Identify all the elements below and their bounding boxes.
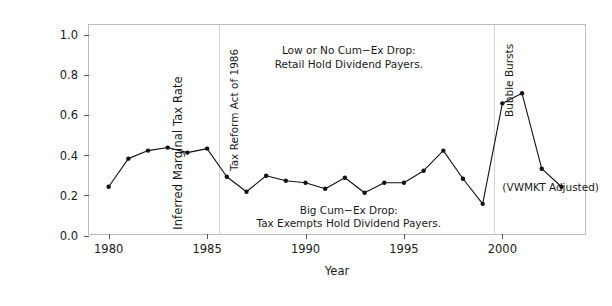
data-point <box>500 101 504 105</box>
x-axis-tick-label: 1985 <box>192 242 221 256</box>
data-point <box>244 190 248 194</box>
x-axis-tick-label: 2000 <box>488 242 517 256</box>
chart-figure: Inferred Marginal Tax Rate 0.00.20.40.60… <box>0 0 612 306</box>
data-point <box>185 150 189 154</box>
data-point <box>146 148 150 152</box>
plot-area: Inferred Marginal Tax Rate 0.00.20.40.60… <box>88 24 586 235</box>
y-axis-tick-label: 0.6 <box>60 108 84 122</box>
series-layer <box>89 25 587 236</box>
y-axis-tick-label: 0.8 <box>60 68 84 82</box>
data-point <box>402 181 406 185</box>
data-point <box>520 91 524 95</box>
data-point <box>166 145 170 149</box>
x-axis-label: Year <box>89 264 585 278</box>
data-point <box>441 148 445 152</box>
data-point <box>362 191 366 195</box>
data-point <box>126 156 130 160</box>
x-axis-tick-label: 1990 <box>291 242 320 256</box>
y-axis-tick: 0.6 <box>60 108 89 122</box>
y-axis-tick: 0.8 <box>60 68 89 82</box>
data-point <box>343 176 347 180</box>
y-axis-tick-label: 0.2 <box>60 189 84 203</box>
y-axis-tick: 1.0 <box>60 28 89 42</box>
data-point <box>559 185 563 189</box>
data-point <box>382 181 386 185</box>
data-point <box>106 185 110 189</box>
y-axis-tick: 0.0 <box>60 229 89 243</box>
y-axis-tick-label: 0.4 <box>60 149 84 163</box>
y-axis-tick: 0.4 <box>60 149 89 163</box>
y-axis-tick-label: 1.0 <box>60 28 84 42</box>
x-axis-tick-label: 1995 <box>389 242 418 256</box>
data-point <box>225 175 229 179</box>
data-point <box>421 168 425 172</box>
y-axis-tick: 0.2 <box>60 189 89 203</box>
data-point <box>540 166 544 170</box>
data-point <box>480 202 484 206</box>
data-point <box>264 174 268 178</box>
data-point <box>303 181 307 185</box>
data-point <box>323 187 327 191</box>
y-axis-tick-label: 0.0 <box>60 229 84 243</box>
data-point <box>284 179 288 183</box>
series-line-inferred-marginal-tax-rate <box>109 93 562 204</box>
x-axis-tick-label: 1980 <box>94 242 123 256</box>
data-point <box>461 177 465 181</box>
data-point <box>205 146 209 150</box>
